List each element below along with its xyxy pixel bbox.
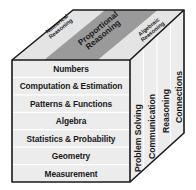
front-face: Numbers Computation & Estimation Pattern…	[12, 60, 130, 182]
col-communication: Communication	[146, 94, 157, 159]
col-reasoning: Reasoning	[160, 89, 171, 133]
col-connections: Connections	[173, 71, 184, 123]
row-measurement: Measurement	[12, 163, 130, 183]
content-strands-cube: Numerical Reasoning Proportional Reasoni…	[0, 0, 196, 190]
col-problem-solving: Problem Solving	[132, 104, 143, 172]
